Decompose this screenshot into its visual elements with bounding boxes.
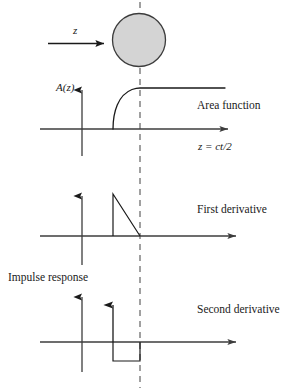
diagram-canvas	[0, 0, 295, 390]
propagation-direction-label: z	[73, 25, 77, 36]
first-derivative-trace	[113, 194, 140, 236]
filled-circle-icon	[113, 14, 166, 67]
area-axis-label: A(z)	[56, 82, 74, 93]
distance-axis-label: z = ct/2	[198, 141, 232, 152]
impulse-response-annotation: Impulse response	[8, 272, 88, 284]
second-derivative-annotation: Second derivative	[197, 304, 280, 316]
figure-container: z A(z) Area function z = ct/2 First deri…	[0, 0, 295, 390]
panel-scatterer-geometry	[48, 14, 166, 67]
second-derivative-negative-box	[113, 342, 140, 361]
area-function-annotation: Area function	[197, 100, 261, 112]
first-derivative-annotation: First derivative	[197, 204, 267, 216]
